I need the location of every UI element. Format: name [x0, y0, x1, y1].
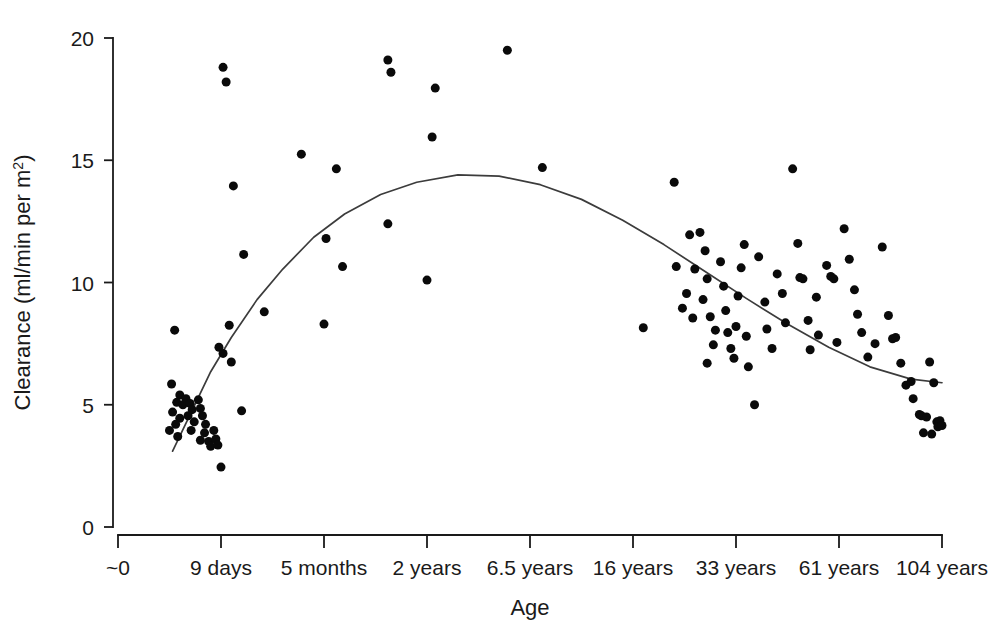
data-point	[773, 269, 782, 278]
data-point	[237, 406, 246, 415]
data-point	[804, 316, 813, 325]
x-tick-label: 104 years	[896, 556, 988, 579]
data-point	[732, 322, 741, 331]
data-point	[168, 408, 177, 417]
data-point	[538, 163, 547, 172]
data-point	[737, 263, 746, 272]
fit-curve-group	[173, 175, 942, 451]
data-point	[929, 378, 938, 387]
data-point	[670, 178, 679, 187]
y-tick-label: 0	[82, 516, 94, 539]
x-tick-label: 9 days	[190, 556, 252, 579]
data-point	[778, 289, 787, 298]
data-point	[878, 243, 887, 252]
data-point	[194, 395, 203, 404]
data-point	[320, 320, 329, 329]
data-point	[386, 68, 395, 77]
data-point	[190, 417, 199, 426]
fit-curve-path	[173, 175, 942, 451]
data-point	[201, 420, 210, 429]
data-point	[383, 56, 392, 65]
data-points-group	[165, 46, 947, 472]
data-point	[701, 246, 710, 255]
data-point	[719, 282, 728, 291]
data-point	[754, 252, 763, 261]
scatter-plot-figure: 05101520~09 days5 months2 years6.5 years…	[0, 0, 1008, 640]
data-point	[762, 324, 771, 333]
data-point	[919, 428, 928, 437]
data-point	[695, 228, 704, 237]
data-point	[857, 328, 866, 337]
data-point	[768, 344, 777, 353]
data-point	[383, 219, 392, 228]
data-point	[196, 436, 205, 445]
data-point	[431, 84, 440, 93]
data-point	[750, 400, 759, 409]
data-point	[850, 285, 859, 294]
data-point	[845, 255, 854, 264]
data-point	[709, 340, 718, 349]
data-point	[503, 46, 512, 55]
data-point	[699, 295, 708, 304]
data-point	[723, 328, 732, 337]
data-point	[742, 332, 751, 341]
data-point	[672, 262, 681, 271]
x-tick-label: 16 years	[593, 556, 674, 579]
data-point	[922, 412, 931, 421]
data-point	[925, 357, 934, 366]
data-point	[884, 311, 893, 320]
data-point	[716, 257, 725, 266]
data-point	[806, 345, 815, 354]
data-point	[198, 411, 207, 420]
data-point	[225, 321, 234, 330]
data-point	[690, 265, 699, 274]
y-tick-label: 20	[71, 27, 94, 50]
data-point	[332, 164, 341, 173]
data-point	[678, 304, 687, 313]
data-point	[744, 362, 753, 371]
data-point	[703, 274, 712, 283]
axis-labels-group: 05101520~09 days5 months2 years6.5 years…	[10, 27, 988, 620]
data-point	[891, 333, 900, 342]
data-point	[863, 353, 872, 362]
data-point	[822, 261, 831, 270]
data-point	[706, 312, 715, 321]
data-point	[814, 331, 823, 340]
x-tick-label: 61 years	[799, 556, 880, 579]
data-point	[729, 354, 738, 363]
data-point	[260, 307, 269, 316]
data-point	[219, 349, 228, 358]
data-point	[322, 234, 331, 243]
data-point	[222, 78, 231, 87]
data-point	[297, 150, 306, 159]
data-point	[167, 379, 176, 388]
data-point	[788, 164, 797, 173]
data-point	[909, 394, 918, 403]
x-tick-label: 33 years	[696, 556, 777, 579]
plot-canvas: 05101520~09 days5 months2 years6.5 years…	[0, 0, 1008, 640]
data-point	[165, 426, 174, 435]
data-point	[793, 239, 802, 248]
data-point	[740, 240, 749, 249]
data-point	[781, 318, 790, 327]
data-point	[229, 181, 238, 190]
data-point	[688, 313, 697, 322]
data-point	[217, 463, 226, 472]
x-axis-title: Age	[510, 595, 549, 620]
data-point	[840, 224, 849, 233]
y-tick-label: 15	[71, 149, 94, 172]
y-tick-label: 5	[82, 394, 94, 417]
x-tick-label: 2 years	[393, 556, 462, 579]
data-point	[853, 310, 862, 319]
data-point	[760, 298, 769, 307]
data-point	[907, 377, 916, 386]
data-point	[239, 250, 248, 259]
x-tick-label: 6.5 years	[487, 556, 573, 579]
data-point	[798, 274, 807, 283]
data-point	[338, 262, 347, 271]
data-point	[639, 323, 648, 332]
data-point	[812, 293, 821, 302]
data-point	[726, 344, 735, 353]
data-point	[423, 276, 432, 285]
data-point	[938, 421, 947, 430]
